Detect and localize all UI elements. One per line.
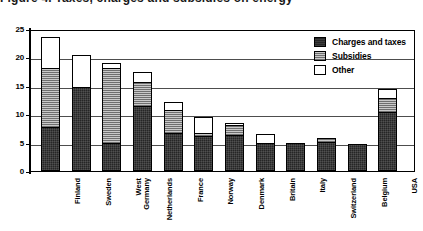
legend-item-other: Other — [314, 65, 406, 75]
x-axis-label: France — [197, 178, 205, 231]
x-axis-label: USA — [411, 178, 419, 231]
bar-segment-subsidies — [133, 82, 152, 107]
bar-segment-other — [102, 63, 121, 69]
y-axis-tick-label: 20 — [16, 54, 25, 62]
bar-segment-other — [225, 123, 244, 126]
bar-segment-charges — [41, 127, 60, 171]
bar-segment-other — [41, 37, 60, 69]
x-axis-label: Italy — [319, 178, 327, 231]
legend-label-other: Other — [332, 65, 354, 75]
plot-area: Charges and taxes Subsidies Other — [30, 30, 415, 172]
legend-swatch-other — [314, 65, 326, 75]
bar-segment-charges — [164, 133, 183, 171]
y-axis-tick-mark — [26, 172, 30, 173]
y-axis-tick-label: 25 — [16, 26, 25, 34]
bar-segment-other — [256, 134, 275, 144]
bar-segment-other — [164, 102, 183, 112]
bar-segment-other — [194, 117, 213, 134]
legend-label-charges-and-taxes: Charges and taxes — [332, 37, 406, 47]
bar-segment-subsidies — [225, 125, 244, 136]
x-axis-label: Norway — [227, 178, 235, 231]
x-axis-label: Finland — [74, 178, 82, 231]
y-axis: 0510152025 — [0, 30, 30, 172]
bar-segment-charges — [256, 143, 275, 171]
bar-segment-other — [378, 89, 397, 100]
legend-item-charges-and-taxes: Charges and taxes — [314, 37, 406, 47]
y-axis-tick-label: 15 — [16, 83, 25, 91]
figure-title: Figure 4. Taxes, charges and subsidies o… — [0, 0, 423, 7]
legend-swatch-subsidies — [314, 51, 326, 61]
bar-segment-subsidies — [102, 68, 121, 145]
bar-segment-charges — [133, 106, 152, 171]
bar-segment-subsidies — [317, 138, 336, 142]
bar-segment-charges — [72, 87, 91, 171]
bar-segment-charges — [348, 144, 367, 171]
x-axis-label: Sweden — [105, 178, 113, 231]
bar-segment-subsidies — [164, 110, 183, 134]
y-axis-tick-label: 10 — [16, 111, 25, 119]
bar-segment-charges — [225, 135, 244, 171]
bar-segment-charges — [194, 136, 213, 171]
x-axis-label: Netherlands — [166, 178, 174, 231]
bar-segment-subsidies — [41, 68, 60, 129]
bar-segment-charges — [317, 142, 336, 171]
bar-segment-subsidies — [378, 98, 397, 112]
x-axis-label: Belgium — [381, 178, 389, 231]
bar-segment-charges — [286, 143, 305, 171]
x-axis-label: West Germany — [135, 178, 151, 231]
x-axis-labels: FinlandSwedenWest GermanyNetherlandsFran… — [30, 176, 415, 231]
bar-segment-other — [72, 55, 91, 88]
y-axis-tick-label: 5 — [20, 140, 24, 148]
bar-segment-other — [133, 72, 152, 83]
x-axis-label: Denmark — [258, 178, 266, 231]
legend-item-subsidies: Subsidies — [314, 51, 406, 61]
bar-segment-charges — [102, 143, 121, 171]
x-axis-label: Switzerland — [350, 178, 358, 231]
chart-legend: Charges and taxes Subsidies Other — [314, 37, 406, 75]
y-axis-tick-label: 0 — [20, 168, 24, 176]
legend-swatch-charges-and-taxes — [314, 37, 326, 47]
legend-label-subsidies: Subsidies — [332, 51, 371, 61]
bar-segment-charges — [378, 112, 397, 172]
x-axis-label: Britain — [289, 178, 297, 231]
